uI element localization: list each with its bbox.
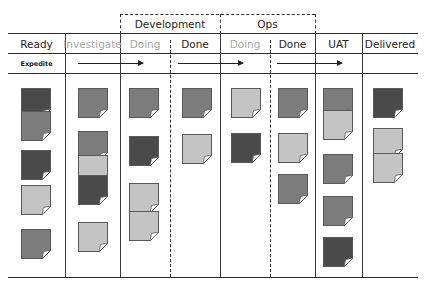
page-curl-icon (299, 195, 308, 204)
card[interactable] (323, 196, 353, 226)
page-curl-icon (150, 157, 159, 166)
card[interactable] (21, 229, 51, 259)
card[interactable] (278, 133, 308, 163)
kanban-board: Development Ops Ready Investigate Doing … (0, 0, 427, 290)
page-curl-icon (99, 109, 108, 118)
card[interactable] (323, 154, 353, 184)
column-header-investigate: Investigate (65, 34, 120, 53)
column-divider (220, 33, 221, 277)
card[interactable] (21, 185, 51, 215)
subcolumn-divider-ops (270, 40, 271, 277)
column-divider (362, 33, 363, 277)
page-curl-icon (299, 154, 308, 163)
group-box-right-border (315, 14, 316, 34)
page-curl-icon (344, 131, 353, 140)
expedite-lane-label: Expedite (8, 54, 65, 73)
card[interactable] (323, 237, 353, 267)
column-header-development-doing: Doing (120, 34, 170, 53)
card[interactable] (78, 88, 108, 118)
page-curl-icon (99, 243, 108, 252)
page-curl-icon (99, 196, 108, 205)
page-curl-icon (394, 174, 403, 183)
page-curl-icon (42, 171, 51, 180)
page-curl-icon (344, 217, 353, 226)
card[interactable] (278, 174, 308, 204)
expedite-arrow (178, 63, 243, 64)
page-curl-icon (150, 109, 159, 118)
card[interactable] (21, 150, 51, 180)
card[interactable] (129, 183, 159, 213)
column-divider (315, 33, 316, 277)
card[interactable] (78, 175, 108, 205)
page-curl-icon (42, 250, 51, 259)
page-curl-icon (299, 109, 308, 118)
column-header-delivered: Delivered (362, 34, 418, 53)
page-curl-icon (252, 109, 261, 118)
card[interactable] (231, 133, 261, 163)
column-header-uat: UAT (315, 34, 362, 53)
card[interactable] (129, 136, 159, 166)
column-divider (65, 33, 66, 277)
expedite-arrow (277, 63, 342, 64)
page-curl-icon (203, 155, 212, 164)
expedite-lane-bottom-line (8, 73, 418, 74)
page-curl-icon (42, 206, 51, 215)
board-bottom-line (8, 277, 418, 278)
page-curl-icon (203, 109, 212, 118)
card[interactable] (129, 88, 159, 118)
column-header-development-done: Done (170, 34, 220, 53)
column-header-ops-done: Done (270, 34, 315, 53)
card[interactable] (78, 222, 108, 252)
page-curl-icon (394, 109, 403, 118)
group-header-ops: Ops (220, 15, 315, 33)
page-curl-icon (150, 232, 159, 241)
header-bottom-line (8, 53, 418, 54)
page-curl-icon (252, 154, 261, 163)
page-curl-icon (344, 175, 353, 184)
column-header-ready: Ready (8, 34, 65, 53)
expedite-arrow (78, 63, 143, 64)
group-header-development: Development (120, 15, 220, 33)
card[interactable] (129, 211, 159, 241)
card[interactable] (278, 88, 308, 118)
card[interactable] (373, 153, 403, 183)
card[interactable] (182, 88, 212, 118)
card[interactable] (323, 110, 353, 140)
card[interactable] (182, 134, 212, 164)
subcolumn-divider-development (170, 40, 171, 277)
card[interactable] (231, 88, 261, 118)
card[interactable] (373, 88, 403, 118)
column-divider (120, 33, 121, 277)
page-curl-icon (344, 258, 353, 267)
page-curl-icon (42, 132, 51, 141)
card[interactable] (21, 111, 51, 141)
column-header-ops-doing: Doing (220, 34, 270, 53)
